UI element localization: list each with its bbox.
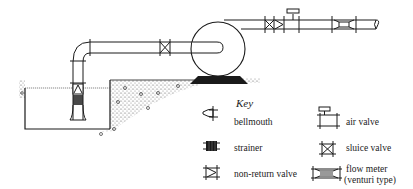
non-return-valve-icon <box>203 165 220 180</box>
pump <box>190 22 248 84</box>
key-label-air-valve: air valve <box>346 118 379 128</box>
key-label-bellmouth: bellmouth <box>234 118 273 128</box>
suction-well <box>25 88 110 129</box>
key-label-strainer: strainer <box>234 144 263 154</box>
flow-meter-icon <box>311 166 342 181</box>
air-valve-icon <box>317 107 340 129</box>
flow-meter <box>332 16 356 33</box>
key-title: Key <box>236 97 253 109</box>
key-label-flow-meter: flow meter <box>346 165 387 175</box>
delivery-pipe <box>224 20 379 29</box>
delivery-non-return-valve <box>275 16 284 33</box>
key-label-non-return-valve: non-return valve <box>234 170 297 180</box>
sluice-valve-icon <box>319 141 336 157</box>
key-label-flow-meter-type: (venturi type) <box>344 176 396 186</box>
suction-non-return-valve <box>73 84 83 94</box>
key-label-sluice-valve: sluice valve <box>346 144 391 154</box>
strainer <box>73 95 83 105</box>
bellmouth-icon <box>203 106 218 121</box>
delivery-sluice-valve <box>265 16 274 33</box>
bellmouth <box>70 105 86 120</box>
ground <box>19 78 260 136</box>
pumping-station-diagram <box>0 0 413 189</box>
strainer-icon <box>203 141 220 151</box>
